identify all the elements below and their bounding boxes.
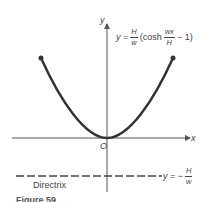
directrix-label: Directrix (33, 181, 66, 190)
coef-fraction: Hw (130, 28, 137, 46)
x-axis-label: x (191, 134, 196, 143)
left-endpoint (39, 56, 44, 61)
catenary-equation: y = Hw (cosh wxH − 1) (116, 28, 193, 46)
origin-label: O (100, 142, 107, 151)
figure-caption: Figure 59 (16, 195, 56, 202)
right-endpoint (171, 56, 176, 61)
y-axis-label: y (100, 16, 105, 25)
directrix-equation: y = − Hw (163, 167, 192, 185)
arg-fraction: wxH (164, 28, 175, 46)
